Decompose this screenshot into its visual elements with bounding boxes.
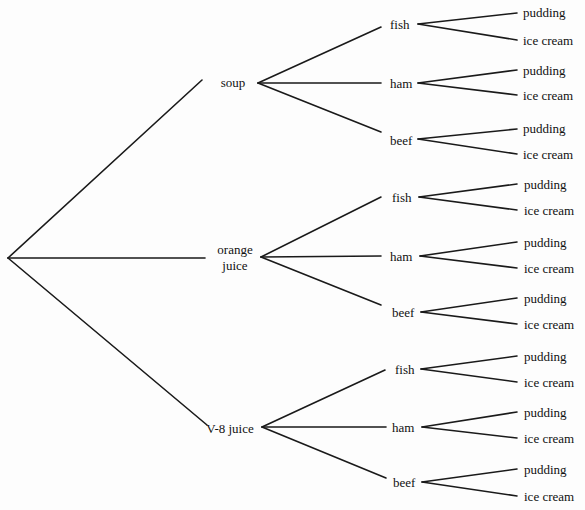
node-dessert-label: ice cream <box>523 88 573 103</box>
edge-main-to-dessert <box>421 298 517 312</box>
node-dessert-label: ice cream <box>524 375 574 390</box>
node-dessert-label: pudding <box>524 235 567 250</box>
edge-main-to-dessert <box>419 197 517 210</box>
node-appetizer-label: V-8 juice <box>206 421 254 436</box>
edge-main-to-dessert <box>418 70 517 83</box>
edge-main-to-dessert <box>421 356 517 369</box>
node-main-course-label: fish <box>392 190 412 205</box>
edge-main-to-dessert <box>418 129 517 139</box>
edge-main-to-dessert <box>418 139 517 154</box>
node-main-course-label: fish <box>395 362 415 377</box>
node-main-course-label: ham <box>390 249 412 264</box>
edge-main-to-dessert <box>421 369 517 382</box>
node-appetizer-label: soup <box>221 75 246 90</box>
node-dessert-label: ice cream <box>523 33 573 48</box>
node-dessert-label: pudding <box>523 63 566 78</box>
edge-main-to-dessert <box>419 184 517 197</box>
node-dessert-label: pudding <box>523 5 566 20</box>
edge-root-to-appetizer <box>8 258 207 425</box>
node-label-line1: orange <box>217 242 252 258</box>
edge-main-to-dessert <box>420 256 517 268</box>
node-dessert-label: ice cream <box>524 317 574 332</box>
edge-main-to-dessert <box>418 83 517 95</box>
edge-appetizer-to-main <box>261 257 381 305</box>
node-main-course-label: beef <box>393 475 415 490</box>
tree-edges <box>0 0 585 510</box>
edge-appetizer-to-main <box>258 27 381 83</box>
node-main-course-label: beef <box>392 305 414 320</box>
edge-main-to-dessert <box>422 482 517 496</box>
edge-main-to-dessert <box>422 469 517 482</box>
node-label-line2: juice <box>217 258 252 274</box>
node-dessert-label: pudding <box>524 291 567 306</box>
edge-main-to-dessert <box>420 242 517 256</box>
edge-root-to-appetizer <box>8 80 202 258</box>
node-main-course-label: ham <box>390 76 412 91</box>
node-dessert-label: pudding <box>524 177 567 192</box>
node-dessert-label: ice cream <box>524 261 574 276</box>
edge-main-to-dessert <box>421 312 517 324</box>
node-dessert-label: ice cream <box>524 489 574 504</box>
edge-appetizer-to-main <box>261 197 381 257</box>
edge-appetizer-to-main <box>262 427 386 478</box>
node-main-course-label: beef <box>390 133 412 148</box>
edge-main-to-dessert <box>418 24 517 40</box>
tree-diagram: soupfishpuddingice creamhampuddingice cr… <box>0 0 585 510</box>
node-dessert-label: pudding <box>524 405 567 420</box>
edge-appetizer-to-main <box>261 256 381 257</box>
edge-main-to-dessert <box>418 13 517 24</box>
node-main-course-label: fish <box>390 17 410 32</box>
node-appetizer-label: orangejuice <box>217 242 252 274</box>
edge-appetizer-to-main <box>258 83 381 132</box>
node-dessert-label: ice cream <box>524 203 574 218</box>
edge-appetizer-to-main <box>262 370 385 427</box>
edge-main-to-dessert <box>422 427 517 438</box>
node-main-course-label: ham <box>392 420 414 435</box>
node-dessert-label: ice cream <box>523 147 573 162</box>
node-dessert-label: pudding <box>524 349 567 364</box>
node-dessert-label: pudding <box>524 462 567 477</box>
node-dessert-label: pudding <box>523 121 566 136</box>
edge-main-to-dessert <box>422 412 517 427</box>
node-dessert-label: ice cream <box>524 431 574 446</box>
